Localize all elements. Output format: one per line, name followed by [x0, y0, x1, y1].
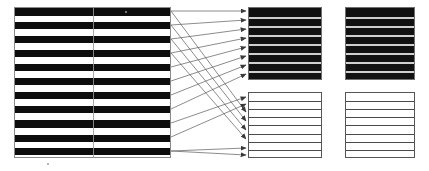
target-panel-bottom-right-rule-5: [346, 142, 414, 143]
target-panel-top-right-rule-1: [346, 26, 414, 28]
target-panel-top-right-rule-6: [346, 71, 414, 73]
mapping-arrow-3: [171, 25, 246, 121]
figure-canvas: [0, 0, 429, 171]
mapping-arrow-6: [171, 38, 246, 53]
mapping-arrow-14: [171, 148, 246, 151]
target-panel-bottom-left-rule-3: [249, 125, 321, 126]
target-panel-top-left-rule-3: [249, 44, 321, 46]
target-panel-top-right-rule-2: [346, 35, 414, 37]
target-panel-top-right: [345, 7, 415, 80]
target-panel-bottom-left-rule-2: [249, 117, 321, 118]
speck-top: [125, 11, 127, 13]
target-panel-bottom-right-rule-2: [346, 117, 414, 118]
target-panel-top-right-rule-3: [346, 44, 414, 46]
target-panel-top-left-rule-6: [249, 71, 321, 73]
target-panel-top-right-rule-5: [346, 62, 414, 64]
target-panel-bottom-right-rule-4: [346, 134, 414, 135]
mapping-arrow-1: [171, 11, 246, 112]
target-panel-top-left: [248, 7, 322, 80]
target-panel-top-left-rule-0: [249, 17, 321, 19]
target-panel-bottom-left-rule-6: [249, 150, 321, 151]
target-panel-bottom-left-rule-4: [249, 134, 321, 135]
mapping-arrow-15: [171, 151, 246, 155]
mapping-arrow-4: [171, 29, 246, 39]
target-panel-top-right-rule-0: [346, 17, 414, 19]
source-vertical-divider: [93, 8, 94, 157]
connector-lines: [171, 11, 246, 155]
target-panel-top-left-rule-2: [249, 35, 321, 37]
mapping-arrow-11: [171, 74, 246, 109]
target-panel-bottom-right-rule-1: [346, 109, 414, 110]
target-panel-bottom-left-rule-5: [249, 142, 321, 143]
target-panel-top-left-rule-4: [249, 53, 321, 55]
target-panel-bottom-left-rule-0: [249, 101, 321, 102]
speck-bottom: [47, 163, 49, 165]
mapping-arrow-12: [171, 97, 246, 123]
target-panel-bottom-left-rule-1: [249, 109, 321, 110]
source-stripe-block: [14, 7, 171, 158]
mapping-arrow-10: [171, 65, 246, 95]
target-panel-bottom-right-rule-0: [346, 101, 414, 102]
mapping-arrow-5: [171, 39, 246, 130]
mapping-arrow-2: [171, 20, 246, 25]
target-panel-bottom-right-rule-6: [346, 150, 414, 151]
mapping-arrow-7: [171, 53, 246, 139]
mapping-arrow-9: [171, 56, 246, 81]
target-panel-top-left-rule-5: [249, 62, 321, 64]
mapping-arrow-8: [171, 47, 246, 67]
target-panel-top-right-rule-4: [346, 53, 414, 55]
mapping-arrow-13: [171, 104, 246, 137]
target-panel-bottom-right-rule-3: [346, 125, 414, 126]
target-panel-bottom-right: [345, 92, 415, 158]
target-panel-bottom-left: [248, 92, 322, 158]
target-panel-top-left-rule-1: [249, 26, 321, 28]
